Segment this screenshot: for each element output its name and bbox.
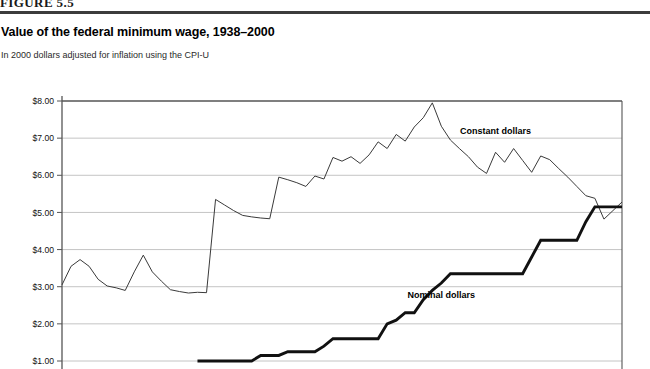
chart-plot-area: $8.00$7.00$6.00$5.00$4.00$3.00$2.00$1.00…: [0, 0, 650, 369]
minimum-wage-line-chart: $8.00$7.00$6.00$5.00$4.00$3.00$2.00$1.00…: [0, 0, 650, 369]
gridlines: [62, 101, 622, 361]
series-label-constant-dollars: Constant dollars: [460, 126, 531, 136]
series-line-nominal-dollars: [197, 207, 622, 361]
chart-series: [62, 103, 622, 361]
y-axis-tick-label: $3.00: [32, 282, 54, 292]
y-axis-tick-label: $2.00: [32, 319, 54, 329]
y-axis-tick-label: $7.00: [32, 133, 54, 143]
y-axis-tick-label: $8.00: [32, 96, 54, 106]
chart-axes: [62, 96, 622, 369]
y-axis-tick-labels: $8.00$7.00$6.00$5.00$4.00$3.00$2.00$1.00: [32, 96, 54, 366]
y-axis-ticks: [57, 101, 62, 361]
y-axis-tick-label: $6.00: [32, 170, 54, 180]
y-axis-tick-label: $1.00: [32, 356, 54, 366]
series-label-nominal-dollars: Nominal dollars: [408, 290, 476, 300]
y-axis-tick-label: $4.00: [32, 245, 54, 255]
series-line-constant-dollars: [62, 103, 622, 293]
y-axis-tick-label: $5.00: [32, 208, 54, 218]
